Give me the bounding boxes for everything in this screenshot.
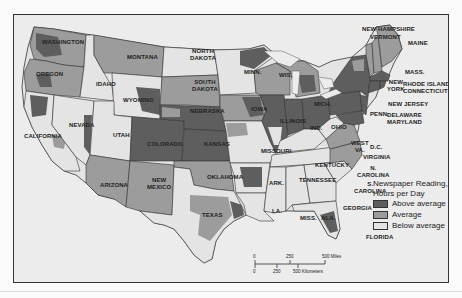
legend: Newspaper Reading, Hours per Day Above a… <box>373 179 449 231</box>
label-mich: MICH. <box>314 101 332 108</box>
label-colorado: COLORADO <box>147 141 183 148</box>
scale-bar: 0 250 500 Miles 0 250 500 Kilometers <box>253 252 363 276</box>
label-south-dakota-line2: DAKOTA <box>192 86 218 92</box>
state-colorado <box>130 117 184 161</box>
scale-km-250: 250 <box>273 269 281 274</box>
label-dc: D.C. <box>370 144 382 151</box>
label-wyoming: WYOMING <box>123 97 154 104</box>
label-south-dakota-line1: SOUTH <box>194 79 216 85</box>
label-mass: MASS. <box>405 69 425 76</box>
label-oregon: OREGON <box>36 71 63 78</box>
label-virginia: VIRGINIA <box>363 154 390 161</box>
label-ala: ALA. <box>321 215 335 222</box>
us-choropleth-map <box>14 15 449 283</box>
scale-km-0: 0 <box>253 269 256 274</box>
label-illinois: ILLINOIS <box>280 118 306 125</box>
label-idaho: IDAHO <box>96 81 116 88</box>
region-missouri-average <box>226 123 248 137</box>
label-texas: TEXAS <box>202 212 223 219</box>
label-washington: WASHINGTON <box>42 39 84 46</box>
label-missouri: MISSOURI <box>261 148 291 155</box>
label-wis: WIS. <box>279 72 292 79</box>
label-montana: MONTANA <box>127 54 158 61</box>
legend-title-line2: Hours per Day <box>373 189 449 199</box>
label-iowa: IOWA <box>251 106 267 113</box>
label-west-va: WESTVA. <box>351 140 369 153</box>
scale-miles-250: 250 <box>286 254 294 259</box>
legend-item-below: Below average <box>373 220 449 231</box>
state-arizona <box>86 155 130 207</box>
label-oklahoma: OKLAHOMA <box>207 174 243 181</box>
legend-swatch-above <box>373 200 388 208</box>
label-new-hampshire: NEW HAMPSHIRE <box>362 26 415 33</box>
label-vermont: VERMONT <box>370 34 401 41</box>
label-maryland: MARYLAND <box>387 119 422 126</box>
label-connecticut: CONNECTICUT <box>403 88 448 95</box>
label-new-mexico: NEWMEXICO <box>147 177 171 190</box>
label-utah: UTAH <box>113 132 130 139</box>
label-tennessee: TENNESSEE <box>299 177 336 184</box>
scale-km-500: 500 Kilometers <box>293 269 323 274</box>
page-divider <box>0 291 462 292</box>
label-n-carolina-line1: N. <box>370 165 376 171</box>
label-south-dakota: SOUTHDAKOTA <box>192 79 218 92</box>
label-nevada: NEVADA <box>69 122 95 129</box>
label-new-jersey: NEW JERSEY <box>388 101 428 108</box>
scale-miles-0: 0 <box>253 254 256 259</box>
label-new-mexico-line2: MEXICO <box>147 184 171 190</box>
label-georgia: GEORGIA <box>343 205 372 212</box>
label-n-carolina: N.CAROLINA <box>357 165 389 178</box>
legend-swatch-below <box>373 222 388 230</box>
label-kentucky: KENTUCKY <box>315 162 349 169</box>
legend-label-average: Average <box>392 210 422 219</box>
label-north-dakota-line2: DAKOTA <box>190 55 216 61</box>
legend-swatch-average <box>373 211 388 219</box>
legend-label-above: Above average <box>392 199 446 208</box>
label-ark: ARK. <box>269 180 284 187</box>
label-la: LA. <box>272 208 282 215</box>
label-delaware: DELAWARE <box>387 112 422 119</box>
label-miss: MISS. <box>300 215 317 222</box>
label-west-va-line2: VA. <box>355 147 365 153</box>
label-florida: FLORIDA <box>366 234 393 241</box>
label-north-dakota: NORTHDAKOTA <box>190 48 216 61</box>
map-frame: WASHINGTON OREGON CALIFORNIA IDAHO NEVAD… <box>13 14 449 283</box>
label-new-mexico-line1: NEW <box>152 177 166 183</box>
label-kansas: KANSAS <box>204 141 230 148</box>
region-california-above <box>30 95 48 117</box>
legend-label-below: Below average <box>392 221 445 230</box>
label-nebraska: NEBRASKA <box>190 108 225 115</box>
label-new-york-line1: NEW <box>389 79 403 85</box>
region-new-york-average <box>352 59 364 71</box>
legend-item-average: Average <box>373 209 449 220</box>
label-maine: MAINE <box>408 40 428 47</box>
label-west-va-line1: WEST <box>351 140 369 146</box>
label-arizona: ARIZONA <box>100 182 128 189</box>
label-california: CALIFORNIA <box>24 133 62 140</box>
label-minn: MINN. <box>244 69 262 76</box>
label-ohio: OHIO <box>331 124 347 131</box>
scale-miles-500: 500 Miles <box>322 254 341 259</box>
legend-item-above: Above average <box>373 198 449 209</box>
state-rhode-island <box>380 81 386 89</box>
label-rhode-island: RHODE ISLAND <box>403 81 449 88</box>
label-n-carolina-line2: CAROLINA <box>357 172 389 178</box>
label-ind: IND. <box>310 125 322 132</box>
legend-title-line1: Newspaper Reading, <box>373 179 449 189</box>
label-north-dakota-line1: NORTH <box>192 48 214 54</box>
